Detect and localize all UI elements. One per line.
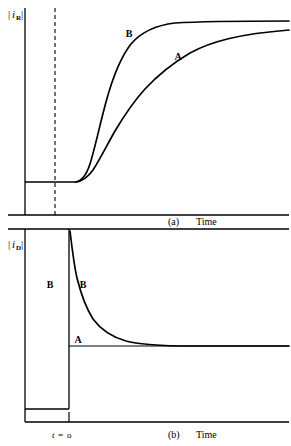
t-zero-equals: = — [58, 430, 63, 440]
panel-b-t-zero-label: t = o — [52, 430, 72, 440]
t-zero-value: o — [67, 430, 72, 440]
panel-b-ylabel-i: i — [12, 238, 15, 250]
panel-a-caption-letter: (a) — [168, 216, 179, 228]
panel-b-label-a: A — [74, 334, 82, 345]
t-zero-variable: t — [52, 430, 55, 440]
panel-a-label-a: A — [174, 51, 182, 62]
panel-a-y-axis-label: | i R | — [8, 8, 23, 22]
panel-b: B B A | i D | t = o (b) Time — [8, 229, 289, 441]
panel-b-y-axis-label: | i D | — [8, 238, 23, 252]
panel-a-ylabel-i: i — [12, 8, 15, 20]
panel-b-caption-letter: (b) — [168, 429, 180, 441]
panel-a: B A | i R | (a) Time — [8, 8, 289, 228]
panel-b-ylabel-bar-right: | — [21, 238, 23, 250]
panel-b-label-b-curve: B — [80, 279, 87, 290]
panel-a-curve-b — [76, 21, 289, 182]
panel-a-ylabel-bar-right: | — [21, 8, 23, 20]
panel-b-ylabel-bar-left: | — [8, 238, 10, 250]
panel-a-xlabel: Time — [196, 216, 217, 227]
panel-b-label-b-left: B — [47, 279, 54, 290]
panel-a-curve-a — [76, 30, 289, 182]
panel-b-xlabel: Time — [196, 429, 217, 440]
panel-b-curve-b — [70, 231, 289, 346]
figure-container: B A | i R | (a) Time B B A — [0, 0, 291, 446]
dual-plot-figure: B A | i R | (a) Time B B A — [0, 0, 291, 446]
panel-a-label-b: B — [126, 28, 133, 39]
panel-a-ylabel-bar-left: | — [8, 8, 10, 20]
